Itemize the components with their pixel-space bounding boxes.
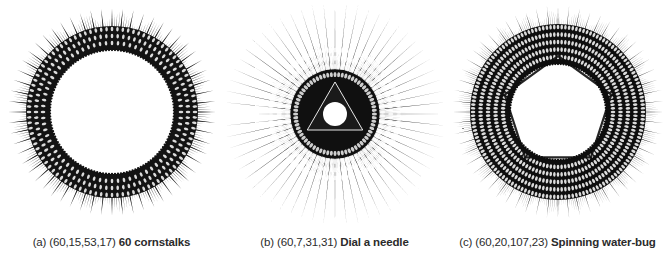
figure-caption-b: (b) (60,7,31,31) Dial a needle — [223, 230, 446, 250]
figure-cell-a — [0, 0, 223, 228]
caption-params-a: (60,15,53,17) — [49, 236, 115, 248]
caption-name-b: Dial a needle — [340, 236, 408, 248]
caption-tag-b: (b) — [260, 236, 274, 248]
figure-row — [0, 0, 669, 228]
caption-params-b: (60,7,31,31) — [277, 236, 337, 248]
caption-params-c: (60,20,107,23) — [475, 236, 548, 248]
caption-name-a: 60 cornstalks — [119, 236, 191, 248]
caption-name-c: Spinning water-bug — [551, 236, 656, 248]
figure-cell-b — [223, 0, 446, 228]
figure-cell-c — [446, 0, 669, 228]
figure-image-b — [223, 0, 446, 228]
caption-tag-a: (a) — [33, 236, 47, 248]
figure-image-c — [446, 0, 669, 228]
caption-row: (a) (60,15,53,17) 60 cornstalks (b) (60,… — [0, 230, 669, 263]
figure-panel: (a) (60,15,53,17) 60 cornstalks (b) (60,… — [0, 0, 669, 263]
figure-caption-a: (a) (60,15,53,17) 60 cornstalks — [0, 230, 223, 250]
figure-caption-c: (c) (60,20,107,23) Spinning water-bug — [446, 230, 669, 250]
caption-tag-c: (c) — [459, 236, 472, 248]
figure-image-a — [0, 0, 223, 228]
